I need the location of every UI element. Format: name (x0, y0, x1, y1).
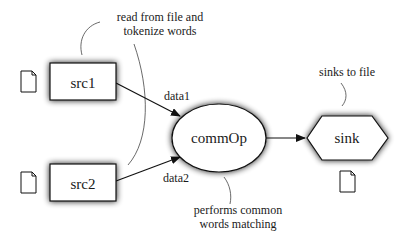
node-src2-label: src2 (71, 176, 96, 192)
node-sink-label: sink (334, 130, 360, 146)
file-icon (21, 71, 36, 92)
node-commop-label: commOp (191, 130, 247, 146)
annotation-connector-sink (341, 83, 346, 106)
node-src2[interactable]: src2 (50, 164, 116, 201)
file-icon (21, 172, 36, 193)
annotation-connector-commop (224, 177, 231, 204)
annotation-commop-line2: words matching (200, 217, 277, 231)
node-src1-label: src1 (71, 75, 96, 91)
edge-label-data1: data1 (164, 89, 190, 103)
annotation-connector-sources-2 (128, 44, 145, 165)
file-icon (340, 171, 355, 192)
edge-label-data2: data2 (163, 171, 189, 185)
annotation-sink-line1: sinks to file (319, 65, 375, 79)
annotation-commop-line1: performs common (194, 203, 282, 217)
node-commop[interactable]: commOp (172, 104, 266, 172)
node-src1[interactable]: src1 (50, 63, 116, 100)
node-sink[interactable]: sink (307, 116, 388, 160)
annotation-sources-line2: tokenize words (124, 24, 197, 38)
annotation-connector-sources (81, 22, 100, 55)
annotation-sources-line1: read from file and (117, 10, 203, 24)
dataflow-diagram: src1 src2 commOp sink data1 data2 read f… (0, 0, 404, 242)
